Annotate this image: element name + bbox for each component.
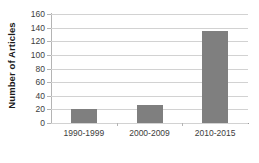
y-axis-title-text: Number of Articles [6,22,17,108]
y-axis-tick-label: 100 [17,50,45,59]
x-axis-tick-mark [117,123,118,126]
y-axis-tick-mark [47,69,51,70]
y-axis-tick-mark [47,96,51,97]
y-axis-tick-label: 20 [17,105,45,114]
gridline [51,28,248,29]
y-axis-tick-labels: 020406080100120140160 [18,9,48,123]
y-axis-tick-label: 40 [17,91,45,100]
bar [71,109,97,123]
gridline [51,14,248,15]
x-axis-tick-label: 1990-1999 [64,128,105,138]
y-axis-tick-mark [47,109,51,110]
y-axis-tick-mark [47,28,51,29]
x-axis-tick-mark [182,123,183,126]
plot-area [51,14,248,123]
y-axis-tick-mark [47,55,51,56]
y-axis-tick-label: 80 [17,64,45,73]
y-axis-tick-label: 0 [17,119,45,128]
bar-chart: Number of Articles 020406080100120140160… [0,0,259,163]
y-axis-tick-mark [47,82,51,83]
y-axis-tick-label: 120 [17,37,45,46]
x-axis-tick-labels: 1990-19992000-20092010-2015 [51,128,248,146]
y-axis-tick-label: 60 [17,78,45,87]
x-axis-tick-label: 2010-2015 [195,128,236,138]
x-axis-tick-label: 2000-2009 [129,128,170,138]
gridline [51,123,248,124]
bar [202,31,228,123]
y-axis-tick-label: 140 [17,23,45,32]
bar [137,105,163,123]
y-axis-tick-mark [47,41,51,42]
y-axis-tick-label: 160 [17,10,45,19]
y-axis-tick-mark [47,14,51,15]
y-axis-tick-mark [47,123,51,124]
